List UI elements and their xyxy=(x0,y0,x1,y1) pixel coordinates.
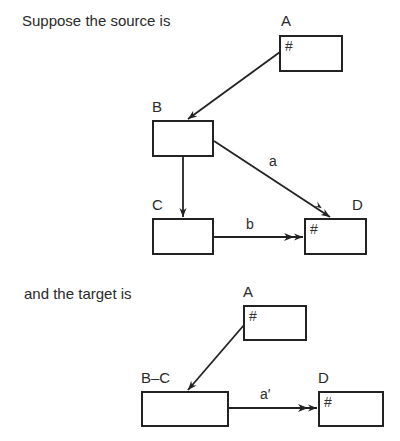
source-edge-a-label: a xyxy=(269,153,277,169)
target-caption: and the target is xyxy=(24,285,132,302)
edge-target-a-to-bc xyxy=(188,325,244,390)
source-node-c-box xyxy=(152,218,214,255)
source-node-d-box: # xyxy=(304,218,367,255)
target-node-bc-label: B–C xyxy=(141,369,170,386)
source-node-b-label: B xyxy=(152,98,162,115)
target-node-d-label: D xyxy=(318,369,329,386)
target-node-a-box: # xyxy=(243,305,307,341)
source-caption: Suppose the source is xyxy=(22,12,170,29)
source-node-d-label: D xyxy=(352,196,363,213)
source-node-a-label: A xyxy=(281,12,291,29)
hash-marker: # xyxy=(310,221,318,237)
hash-marker: # xyxy=(285,38,293,54)
source-node-b-box xyxy=(152,120,214,157)
target-node-a-label: A xyxy=(243,283,253,300)
target-edge-aprime-label: a′ xyxy=(260,386,270,402)
target-node-d-box: # xyxy=(318,391,384,427)
source-node-a-box: # xyxy=(279,35,343,72)
source-node-c-label: C xyxy=(152,196,163,213)
target-node-bc-box xyxy=(141,391,229,427)
edge-source-a-to-b xyxy=(188,52,280,119)
source-edge-b-label: b xyxy=(246,216,254,232)
edge-target-bc-to-d-aprime xyxy=(229,404,317,412)
hash-marker: # xyxy=(324,394,332,410)
edge-source-c-to-d-b xyxy=(214,233,303,241)
hash-marker: # xyxy=(249,308,257,324)
